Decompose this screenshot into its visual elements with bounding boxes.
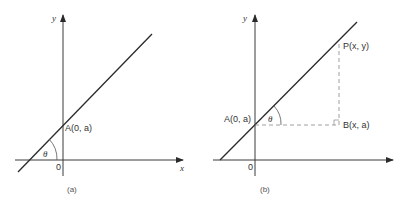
caption-b: (b) — [260, 185, 270, 194]
point-p-label-b: P(x, y) — [343, 41, 369, 51]
origin-label-b: 0 — [248, 162, 253, 172]
angle-label-b: θ — [268, 114, 273, 124]
y-axis-label-b: y — [242, 13, 247, 23]
angle-label-a: θ — [43, 149, 48, 159]
x-axis-label-a: x — [179, 163, 184, 173]
line-a — [18, 34, 152, 172]
angle-arc-a — [49, 139, 57, 160]
diagram-canvas: θ A(0, a) 0 x y (a) θ A(0, a) P(x, y) B(… — [0, 0, 403, 203]
line-b — [220, 22, 357, 160]
point-a-label-a: A(0, a) — [65, 123, 92, 133]
panel-b: θ A(0, a) P(x, y) B(x, a) 0 y (b) — [213, 13, 393, 194]
point-a-label-b: A(0, a) — [224, 114, 251, 124]
y-axis-label-a: y — [51, 13, 56, 23]
angle-arc-b — [274, 106, 281, 125]
origin-label-a: 0 — [56, 162, 61, 172]
panel-a: θ A(0, a) 0 x y (a) — [15, 13, 184, 194]
point-b-label-b: B(x, a) — [343, 120, 370, 130]
caption-a: (a) — [67, 185, 77, 194]
right-angle-marker-b — [334, 120, 339, 125]
